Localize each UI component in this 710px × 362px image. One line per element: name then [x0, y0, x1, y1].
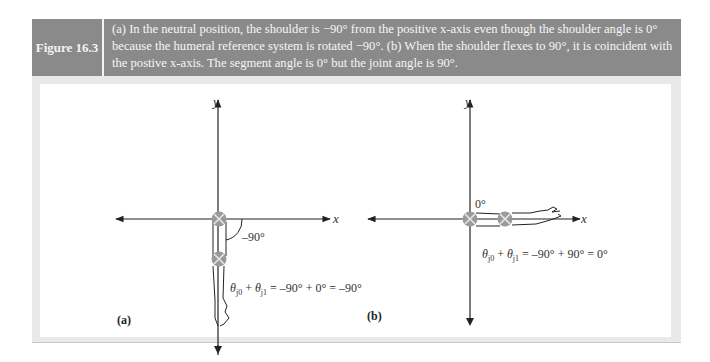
panel-a-label: (a): [117, 313, 131, 327]
y-label-a: y: [211, 94, 219, 109]
elbow-joint-icon: [212, 252, 227, 267]
x-label-b: x: [580, 211, 587, 226]
shoulder-joint-icon: [212, 212, 227, 227]
equation-a: θj0 + θj1 = –90° + 0° = –90°: [230, 281, 362, 297]
panel-b-label: (b): [367, 309, 382, 323]
equation-b: θj0 + θj1 = –90° + 90° = 0°: [482, 247, 608, 263]
panel-a-diagram: [116, 100, 330, 355]
figure-diagram: y x –90° θj0 + θj1 = –90° + 0° = –90° (a…: [0, 0, 710, 362]
elbow-joint-icon: [498, 212, 513, 227]
y-label-b: y: [463, 94, 471, 109]
x-label-a: x: [332, 211, 339, 226]
panel-b-diagram: [368, 100, 580, 326]
angle-label-b: 0°: [475, 197, 486, 211]
angle-label-a: –90°: [241, 230, 265, 244]
shoulder-joint-icon: [463, 212, 478, 227]
